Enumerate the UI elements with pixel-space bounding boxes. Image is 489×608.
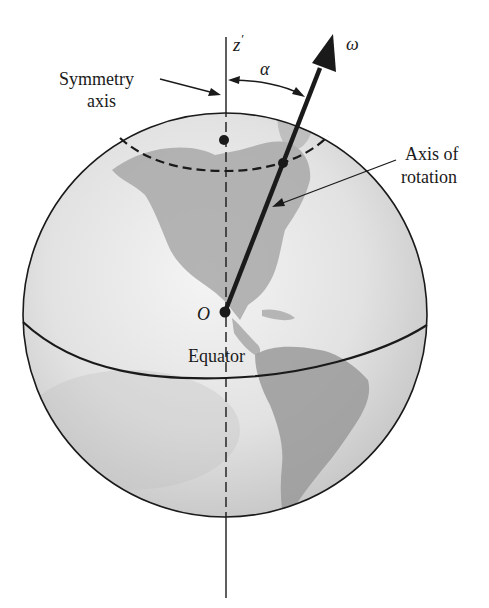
pole-dot bbox=[219, 135, 229, 145]
symmetry-axis-label-line1: Symmetry bbox=[59, 69, 134, 89]
omega-label: ω bbox=[346, 34, 359, 54]
globe bbox=[20, 111, 427, 525]
symmetry-axis-label-line2: axis bbox=[87, 91, 116, 111]
origin-label: O bbox=[197, 304, 210, 324]
z-prime-label: z′ bbox=[232, 31, 243, 55]
axis-of-rotation-label-line1: Axis of bbox=[405, 144, 459, 164]
alpha-label: α bbox=[260, 59, 270, 79]
axis-of-rotation-label-line2: rotation bbox=[401, 167, 457, 187]
equator-label: Equator bbox=[188, 346, 245, 366]
globe-diagram: z′ ω α Symmetry axis Axis of rotation O … bbox=[0, 0, 489, 608]
symmetry-leader-arrow bbox=[160, 79, 221, 96]
alpha-angle-arc bbox=[228, 76, 305, 97]
